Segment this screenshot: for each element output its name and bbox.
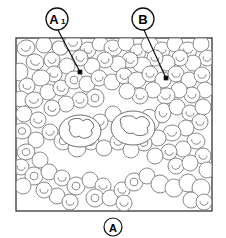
micrograph-panel [12,34,217,211]
leukocyte [59,115,101,147]
label-a[interactable]: A [104,218,122,236]
figure-container: A 1 B A [0,0,226,238]
label-a1[interactable]: A 1 [46,8,68,30]
erythrocyte-membrane [182,155,199,172]
erythrocyte [194,67,211,84]
leader-line-b-endpoint-dot [164,76,168,80]
label-a-text: A [109,222,117,234]
label-b[interactable]: B [132,8,154,30]
erythrocyte-membrane [194,67,211,84]
blood-smear-figure: A 1 B A [0,0,226,238]
erythrocyte-membrane [15,178,31,194]
leader-line-a1-endpoint-dot [78,70,82,74]
label-b-text: B [138,12,147,27]
leukocyte [111,111,155,145]
erythrocyte [182,155,199,172]
label-a1-subscript: 1 [61,17,66,26]
leukocyte-lobed-nucleus [69,118,94,138]
erythrocyte [15,178,31,194]
label-a1-text: A [49,12,59,27]
